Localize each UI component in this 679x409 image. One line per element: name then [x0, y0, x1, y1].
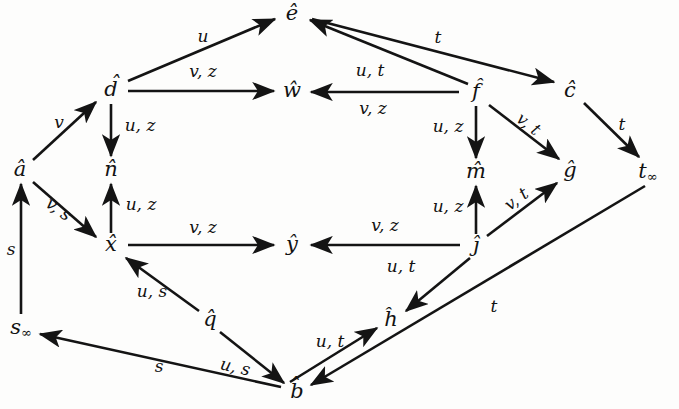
node-w[interactable]: ŵ [283, 78, 301, 102]
diagram-canvas: ê d̂ ŵ f̂ ĉ â n̂ m̂ ĝ t∞ x̂ ŷ ĵ q̂ ĥ s∞ … [0, 0, 679, 409]
edge-label-f-m: u, z [433, 116, 465, 136]
node-h[interactable]: ĥ [384, 307, 398, 331]
edge-label-x-n: u, z [126, 194, 158, 214]
node-m[interactable]: m̂ [466, 159, 486, 183]
edge-label-b-h: u, t [316, 331, 345, 351]
node-t-infinity[interactable]: t∞ [638, 159, 657, 184]
node-s-infinity[interactable]: s∞ [10, 315, 32, 340]
node-y[interactable]: ŷ [285, 232, 299, 256]
edge-label-x-y: v, z [189, 217, 217, 237]
node-q[interactable]: q̂ [203, 307, 216, 331]
node-d[interactable]: d̂ [104, 74, 120, 101]
edge-j-h [406, 258, 470, 311]
node-n[interactable]: n̂ [104, 157, 118, 181]
edge-label-d-w: v, z [189, 61, 217, 81]
edge-label-f-g: v, t [513, 108, 545, 139]
edge-label-q-b: u, s [218, 353, 252, 379]
node-e[interactable]: ê [286, 1, 298, 25]
edge-c-tinf [584, 103, 639, 157]
edge-label-sinf-a: s [7, 239, 16, 259]
edge-label-q-x: u, s [137, 281, 168, 301]
edge-label-j-g: v, t [500, 183, 532, 214]
edge-label-a-x: v, s [42, 193, 76, 225]
edge-label-d-e: u [198, 26, 209, 46]
directed-graph-svg: ê d̂ ŵ f̂ ĉ â n̂ m̂ ĝ t∞ x̂ ŷ ĵ q̂ ĥ s∞ … [0, 0, 679, 409]
edge-label-d-n: u, z [125, 115, 157, 135]
node-f[interactable]: f̂ [470, 78, 484, 103]
edge-e-c [312, 19, 554, 82]
node-g[interactable]: ĝ [563, 158, 576, 182]
edge-label-e-c: t [435, 27, 442, 47]
edge-label-a-d: v [54, 112, 64, 132]
node-j[interactable]: ĵ [469, 233, 481, 257]
node-b[interactable]: b̂ [290, 376, 303, 403]
edge-tinf-b [311, 186, 645, 385]
edge-label-b-sinf: s [155, 356, 164, 376]
node-a[interactable]: â [14, 157, 27, 181]
edge-label-f-e: u, t [356, 60, 385, 80]
edge-label-tinf-b: t [491, 296, 498, 316]
node-x[interactable]: x̂ [105, 232, 117, 256]
edge-a-d [33, 102, 96, 160]
edge-label-j-y-alt: u, t [387, 256, 416, 276]
edge-f-e [310, 20, 468, 84]
edge-label-f-w: v, z [359, 98, 387, 118]
node-c[interactable]: ĉ [564, 78, 576, 102]
edge-label-j-y: v, z [371, 215, 399, 235]
edge-label-c-tinf: t [619, 114, 626, 134]
edge-label-j-m: u, z [433, 196, 465, 216]
